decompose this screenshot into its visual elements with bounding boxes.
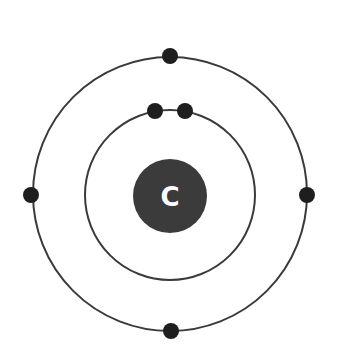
element-symbol: C [160,182,179,212]
electron [177,103,193,119]
electron [163,323,179,339]
electron [299,187,315,203]
electron [147,103,163,119]
electron [162,48,178,64]
bohr-model-svg: C [0,0,351,356]
electron [23,187,39,203]
atom-diagram: C [0,0,351,356]
